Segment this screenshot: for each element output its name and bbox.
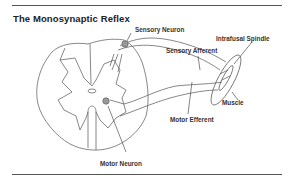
leader-sensory-neuron bbox=[127, 33, 131, 41]
leader-intrafusal-spindle bbox=[234, 42, 252, 64]
motor-neuron-body bbox=[103, 98, 109, 104]
anterior-median-fissure bbox=[88, 106, 96, 150]
posterior-median-sulcus bbox=[90, 44, 91, 84]
sensory-neuron-body bbox=[122, 41, 128, 47]
label-sensory-afferent: Sensory Afferent bbox=[166, 47, 217, 54]
central-canal bbox=[88, 89, 96, 93]
label-intrafusal-spindle: Intrafusal Spindle bbox=[216, 35, 270, 42]
gray-matter bbox=[58, 58, 126, 130]
label-sensory-neuron: Sensory Neuron bbox=[135, 26, 184, 33]
spinal-cord-outline bbox=[37, 39, 148, 150]
label-muscle: Muscle bbox=[222, 99, 244, 106]
leader-motor-efferent bbox=[188, 82, 192, 114]
label-motor-neuron: Motor Neuron bbox=[100, 160, 142, 167]
bottom-divider bbox=[12, 174, 282, 175]
ventral-root bbox=[124, 82, 222, 104]
label-motor-efferent: Motor Efferent bbox=[170, 116, 214, 123]
